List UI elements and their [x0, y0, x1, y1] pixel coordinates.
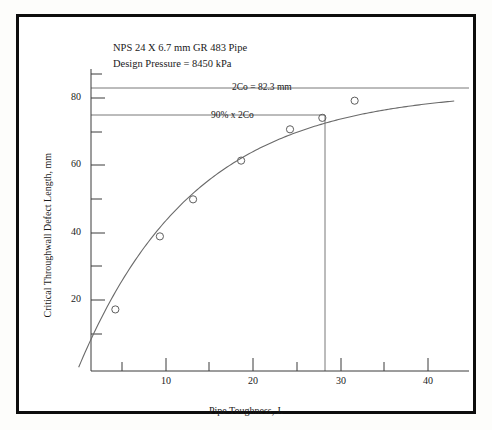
y-axis-minor-ticks: [91, 74, 102, 334]
x-tick-label-40: 40: [419, 375, 437, 386]
data-point: [112, 306, 119, 313]
y-tick-label-20: 20: [67, 293, 85, 304]
chart-plot-area: [19, 17, 473, 411]
figure-frame: 20 40 60 80 10 20 30 40 NPS 24 X 6.7 mm …: [16, 14, 476, 414]
x-axis-title: Pipe Toughness, J.: [209, 405, 283, 416]
x-tick-label-30: 30: [332, 375, 350, 386]
data-point: [156, 233, 163, 240]
annotation-pipe-spec: NPS 24 X 6.7 mm GR 483 Pipe: [113, 42, 247, 53]
y-tick-label-60: 60: [67, 158, 85, 169]
y-axis-title: Critical Throughwall Defect Length, mm: [42, 158, 53, 318]
y-tick-label-80: 80: [67, 91, 85, 102]
data-point: [189, 196, 196, 203]
data-point: [351, 97, 358, 104]
annotation-design-pressure: Design Pressure = 8450 kPa: [113, 58, 232, 69]
page-root: 20 40 60 80 10 20 30 40 NPS 24 X 6.7 mm …: [0, 0, 492, 430]
data-point: [286, 126, 293, 133]
annotation-90pct-label: 90% x 2Co: [211, 110, 254, 120]
data-point-markers: [112, 97, 358, 313]
x-tick-label-20: 20: [244, 375, 262, 386]
x-tick-label-10: 10: [157, 375, 175, 386]
annotation-2co-label: 2Co = 82.3 mm: [232, 82, 292, 92]
fitted-curve: [79, 101, 455, 367]
y-tick-label-40: 40: [67, 226, 85, 237]
